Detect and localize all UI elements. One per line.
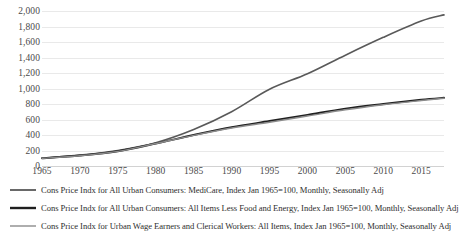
y-tick-label: 200: [25, 146, 40, 156]
x-tick-label: 1980: [146, 166, 165, 176]
x-tick-label: 1965: [32, 166, 51, 176]
x-tick-label: 1985: [184, 166, 203, 176]
legend-line-icon: [10, 223, 36, 229]
x-tick-label: 1970: [70, 166, 89, 176]
y-tick-label: 1,000: [18, 84, 40, 94]
legend-item-medicare[interactable]: Cons Price Indx for All Urban Consumers:…: [10, 184, 384, 196]
y-axis-tick-labels: 02004006008001,0001,2001,4001,6001,8002,…: [0, 0, 40, 180]
legend-item-label: Cons Price Indx for All Urban Consumers:…: [41, 185, 384, 195]
series-layer: [42, 0, 444, 180]
x-tick-label: 2010: [374, 166, 393, 176]
legend-item-core-cpi[interactable]: Cons Price Indx for All Urban Consumers:…: [10, 202, 459, 214]
x-tick-label: 1995: [260, 166, 279, 176]
y-tick-label: 1,400: [18, 53, 40, 63]
plot-area: [42, 0, 444, 180]
y-tick-label: 600: [25, 115, 40, 125]
legend-line-icon: [10, 205, 36, 211]
x-axis-tick-labels: 1965197019751980198519901995200020052010…: [42, 166, 444, 182]
x-tick-label: 2005: [336, 166, 355, 176]
plot-area-wrapper: 02004006008001,0001,2001,4001,6001,8002,…: [0, 0, 452, 180]
legend-item-label: Cons Price Indx for All Urban Consumers:…: [41, 203, 459, 213]
legend-item-cpiw[interactable]: Cons Price Indx for Urban Wage Earners a…: [10, 220, 451, 232]
series-line-2: [42, 98, 444, 158]
y-tick-label: 400: [25, 130, 40, 140]
x-tick-label: 2015: [412, 166, 431, 176]
y-tick-label: 1,800: [18, 22, 40, 32]
legend-line-icon: [10, 187, 36, 193]
chart-legend: Cons Price Indx for All Urban Consumers:…: [0, 182, 452, 236]
y-tick-label: 1,600: [18, 37, 40, 47]
y-tick-label: 800: [25, 99, 40, 109]
x-tick-label: 2000: [298, 166, 317, 176]
x-tick-label: 1990: [222, 166, 241, 176]
x-tick-label: 1975: [108, 166, 127, 176]
y-tick-label: 2,000: [18, 6, 40, 16]
y-tick-label: 1,200: [18, 68, 40, 78]
legend-item-label: Cons Price Indx for Urban Wage Earners a…: [41, 221, 451, 231]
series-line-0: [42, 15, 444, 158]
series-line-1: [42, 98, 444, 158]
